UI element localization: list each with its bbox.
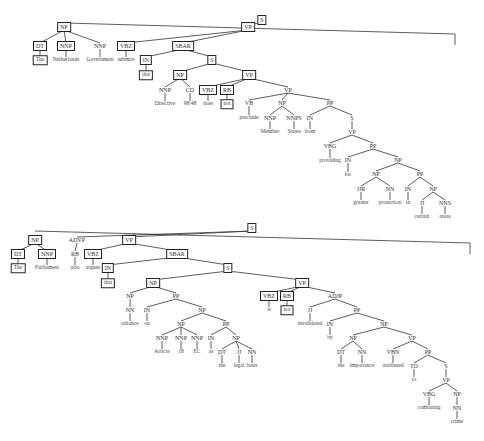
pos-node-nnp: NNP: [263, 114, 277, 122]
tree-edges: [0, 0, 484, 441]
pos-node-pp: PP: [369, 142, 378, 150]
pos-node-s: S: [247, 223, 256, 233]
pos-node-np: NP: [277, 99, 287, 107]
pos-node-rb: RB: [220, 85, 234, 95]
word-leaf: by: [326, 334, 334, 342]
pos-node-jjr: JJR: [356, 185, 367, 193]
pos-node-vbn: VBN: [386, 348, 401, 356]
word-leaf: the: [218, 362, 227, 370]
pos-node-nnp: NNP: [190, 334, 204, 342]
pos-node-vp: VP: [295, 278, 309, 288]
pos-node-np: NP: [428, 185, 438, 193]
pos-node-in: IN: [306, 114, 314, 122]
pos-node-np: NP: [379, 320, 389, 328]
pos-node-vp: VP: [441, 376, 451, 384]
pos-node-s: S: [223, 263, 232, 273]
word-leaf: not: [220, 99, 233, 109]
edge-line: [228, 271, 302, 280]
word-leaf: Member: [260, 128, 281, 136]
pos-node-nn: NN: [385, 185, 396, 193]
pos-node-vp: VP: [283, 86, 293, 94]
pos-node-np: NP: [173, 70, 187, 80]
pos-node-vp: VP: [122, 235, 136, 245]
pos-node-nnps: NNPS: [285, 114, 302, 122]
word-leaf: basis: [246, 362, 259, 370]
pos-node-nnp: NNP: [155, 334, 169, 342]
pos-node-vbg: VBG: [323, 142, 338, 150]
pos-node-pp: PP: [326, 99, 335, 107]
word-leaf: States: [286, 128, 301, 136]
word-leaf: importance: [349, 362, 376, 370]
word-leaf: also: [70, 264, 81, 272]
pos-node-sbar: SBAR: [166, 249, 188, 259]
pos-node-nn: NN: [357, 348, 368, 356]
pos-node-sbar: SBAR: [172, 41, 194, 51]
word-leaf: in: [405, 199, 411, 207]
word-leaf: 98/48: [183, 100, 198, 108]
word-leaf: is: [266, 306, 272, 314]
pos-node-np: NP: [393, 156, 403, 164]
pos-node-vbz: VBZ: [84, 249, 102, 259]
word-leaf: reliance: [120, 320, 139, 328]
word-leaf: on: [143, 320, 151, 328]
word-leaf: the: [337, 362, 346, 370]
pos-node-dt: DT: [217, 348, 227, 356]
edge-line: [310, 299, 335, 307]
pos-node-in: IN: [404, 185, 412, 193]
pos-node-to: TO: [409, 362, 419, 370]
pos-node-pp: PP: [353, 306, 362, 314]
pos-node-dt: DT: [33, 41, 47, 51]
word-leaf: 18: [177, 348, 185, 356]
pos-node-np: NP: [371, 170, 381, 178]
word-leaf: Directive: [154, 100, 176, 108]
pos-node-vbg: VBG: [422, 390, 437, 398]
word-leaf: certain: [414, 213, 431, 221]
pos-node-in: IN: [207, 334, 215, 342]
pos-node-adjp: ADJP: [327, 292, 343, 300]
pos-node-pp: PP: [424, 348, 433, 356]
word-leaf: not: [280, 305, 293, 315]
word-leaf: combating: [416, 404, 441, 412]
word-leaf: preclude: [239, 114, 260, 122]
pos-node-vbz: VBZ: [199, 85, 217, 95]
pos-node-vb: VB: [244, 99, 254, 107]
word-leaf: The: [33, 55, 48, 65]
word-leaf: greater: [352, 199, 369, 207]
edge-line: [288, 93, 330, 100]
pos-node-jj: JJ: [419, 199, 426, 207]
pos-node-pp: PP: [222, 320, 231, 328]
pos-node-in: IN: [140, 55, 152, 65]
pos-node-nnp: NNP: [57, 41, 75, 51]
word-leaf: that: [139, 70, 153, 80]
pos-node-nn: NN: [452, 404, 463, 412]
pos-node-np: NP: [348, 334, 358, 342]
pos-node-s: S: [443, 362, 448, 370]
word-leaf: protection: [378, 199, 402, 207]
pos-node-vp: VP: [347, 128, 357, 136]
pos-node-dt: DT: [11, 249, 25, 259]
parse-tree-canvas: SNPVPDTNNPNNPTheNetherlandsGovernmentVBZ…: [0, 0, 484, 441]
word-leaf: attributed: [381, 362, 404, 370]
pos-node-dt: DT: [336, 348, 346, 356]
edge-line: [153, 271, 228, 280]
pos-node-nnp: NNP: [38, 249, 56, 259]
word-leaf: EC: [192, 348, 201, 356]
word-leaf: legal: [233, 362, 246, 370]
pos-node-np: NP: [176, 320, 186, 328]
word-leaf: argues: [85, 264, 101, 272]
pos-node-nn: NN: [125, 306, 136, 314]
pos-node-np: NP: [146, 278, 160, 288]
pos-node-np: NP: [57, 22, 71, 32]
word-leaf: that: [101, 278, 115, 288]
pos-node-np: NP: [28, 235, 42, 245]
pos-node-jj: JJ: [236, 348, 243, 356]
pos-node-nnp: NNP: [158, 86, 172, 94]
pos-node-rb: RB: [70, 250, 80, 258]
pos-node-np: NP: [452, 390, 462, 398]
pos-node-cd: CD: [185, 86, 195, 94]
pos-node-nn: NN: [247, 348, 258, 356]
word-leaf: Parliament: [34, 264, 60, 272]
pos-node-jj: JJ: [307, 306, 314, 314]
word-leaf: as: [208, 348, 215, 356]
word-leaf: crime: [450, 418, 465, 426]
